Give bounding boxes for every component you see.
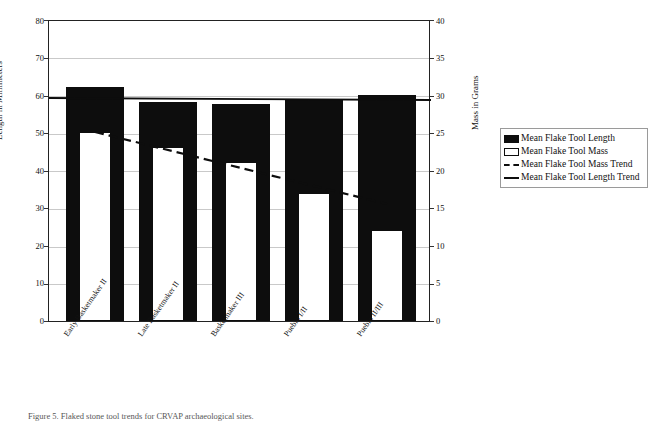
chart-legend: Mean Flake Tool Length Mean Flake Tool M… xyxy=(500,128,648,188)
y-tick-left-10: 10 xyxy=(18,279,44,288)
y-tick-right-30: 30 xyxy=(436,92,462,101)
y-tick-left-30: 30 xyxy=(18,204,44,213)
legend-item-mean-flake-tool-length[interactable]: Mean Flake Tool Length xyxy=(503,132,644,145)
legend-item-mean-flake-tool-mass-trend[interactable]: Mean Flake Tool Mass Trend xyxy=(503,158,644,171)
y-tick-right-40: 40 xyxy=(436,17,462,26)
y-tick-right-35: 35 xyxy=(436,54,462,63)
y-tick-right-0: 0 xyxy=(436,317,462,326)
trend-lines-overlay xyxy=(49,21,431,323)
legend-label-mean-flake-tool-length-trend: Mean Flake Tool Length Trend xyxy=(520,172,639,183)
y-tick-right-10: 10 xyxy=(436,242,462,251)
hollow-swatch-icon xyxy=(503,145,520,158)
y-tick-left-50: 50 xyxy=(18,129,44,138)
y-tick-left-40: 40 xyxy=(18,167,44,176)
solid-black-swatch-icon xyxy=(503,132,520,145)
y-tick-left-20: 20 xyxy=(18,242,44,251)
legend-item-mean-flake-tool-mass[interactable]: Mean Flake Tool Mass xyxy=(503,145,644,158)
y-tick-right-25: 25 xyxy=(436,129,462,138)
y-tick-right-20: 20 xyxy=(436,167,462,176)
y-axis-left-title: Length in Millimeters xyxy=(0,61,4,140)
y-tick-left-80: 80 xyxy=(18,17,44,26)
y-tick-left-70: 70 xyxy=(18,54,44,63)
y-tick-left-60: 60 xyxy=(18,92,44,101)
y-axis-right-title: Mass in Grams xyxy=(470,76,480,131)
y-tick-left-0: 0 xyxy=(18,317,44,326)
legend-label-mean-flake-tool-length: Mean Flake Tool Length xyxy=(520,133,615,144)
dashed-line-icon xyxy=(503,158,520,171)
y-tick-right-15: 15 xyxy=(436,204,462,213)
legend-item-mean-flake-tool-length-trend[interactable]: Mean Flake Tool Length Trend xyxy=(503,171,644,184)
solid-line-icon xyxy=(503,171,520,184)
legend-label-mean-flake-tool-mass: Mean Flake Tool Mass xyxy=(520,146,608,157)
legend-label-mean-flake-tool-mass-trend: Mean Flake Tool Mass Trend xyxy=(520,159,633,170)
plot-area xyxy=(48,20,430,322)
mass-trend-line xyxy=(95,132,387,204)
flake-tool-trends-chart: Length in Millimeters Mass in Grams 80 7… xyxy=(0,0,662,421)
y-tick-right-5: 5 xyxy=(436,279,462,288)
length-trend-line xyxy=(49,98,431,100)
figure-caption: Figure 5. Flaked stone tool trends for C… xyxy=(28,411,588,421)
